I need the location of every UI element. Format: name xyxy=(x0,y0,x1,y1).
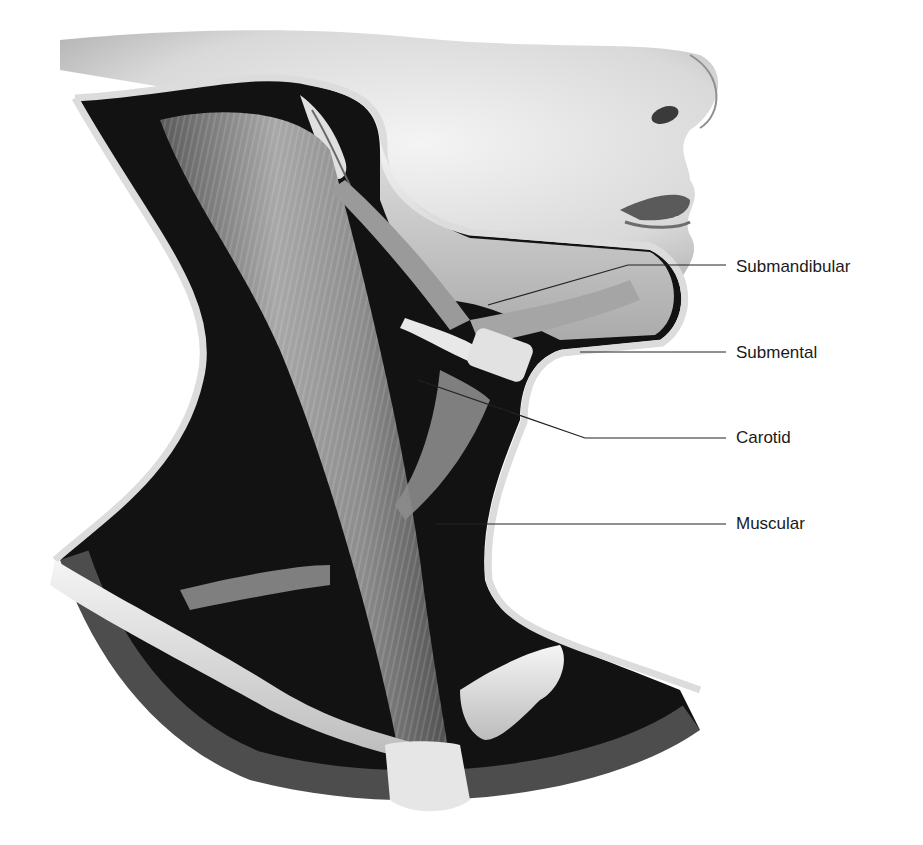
neck-anatomy-illustration xyxy=(0,0,923,845)
sternum xyxy=(385,741,470,811)
label-muscular: Muscular xyxy=(736,515,805,532)
label-submandibular: Submandibular xyxy=(736,258,850,275)
label-submental: Submental xyxy=(736,344,817,361)
label-carotid: Carotid xyxy=(736,429,791,446)
